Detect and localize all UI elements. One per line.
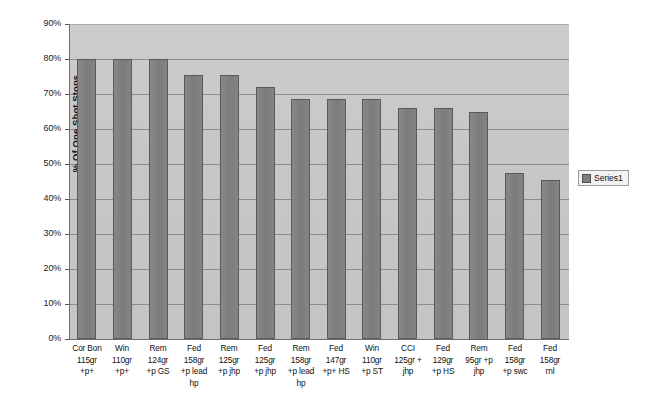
x-axis-label-line: Rem xyxy=(281,343,321,355)
x-axis-label-line: +p lead xyxy=(281,366,321,378)
x-axis-label: Fed158gr+p leadhp xyxy=(174,343,214,389)
x-axis-label: Rem158gr+p leadhp xyxy=(281,343,321,389)
bar[interactable] xyxy=(113,59,132,339)
x-axis-label-line: 115gr xyxy=(67,355,107,367)
x-axis-label-line: +p+ xyxy=(67,366,107,378)
bar[interactable] xyxy=(398,108,417,339)
y-tick-label-70: 70% xyxy=(21,88,61,98)
x-axis-label-line: CCI xyxy=(388,343,428,355)
bar[interactable] xyxy=(505,173,524,339)
bar-chart: 90%80%70%60%50%40%30%20%10%0% % Of One S… xyxy=(0,0,661,417)
y-tick-label-20: 20% xyxy=(21,263,61,273)
x-axis-label-line: Fed xyxy=(316,343,356,355)
x-axis-label-line: 129gr xyxy=(423,355,463,367)
x-axis-label-line: 125gr + xyxy=(388,355,428,367)
x-axis-label: Cor Bon115gr+p+ xyxy=(67,343,107,378)
x-axis-label-line: 110gr xyxy=(102,355,142,367)
x-axis-label: Win110gr+p ST xyxy=(352,343,392,378)
x-axis-label-line: 110gr xyxy=(352,355,392,367)
x-axis-label-line: Rem xyxy=(459,343,499,355)
x-axis-label-line: Cor Bon xyxy=(67,343,107,355)
x-axis-labels: Cor Bon115gr+p+Win110gr+p+Rem124gr+p GSF… xyxy=(69,343,568,403)
bar[interactable] xyxy=(149,59,168,339)
y-tick-label-30: 30% xyxy=(21,228,61,238)
x-axis-label: Win110gr+p+ xyxy=(102,343,142,378)
legend[interactable]: Series1 xyxy=(578,170,629,186)
x-axis-label: Rem125gr+p jhp xyxy=(209,343,249,378)
x-axis-label-line: 158gr xyxy=(495,355,535,367)
x-axis-label: Fed158grrnl xyxy=(530,343,570,378)
x-axis-label: Fed125gr+p jhp xyxy=(245,343,285,378)
bar-series-series1 xyxy=(69,24,568,339)
y-tick-label-90: 90% xyxy=(21,18,61,28)
x-axis-label-line: +p GS xyxy=(138,366,178,378)
x-axis-label-line: +p jhp xyxy=(245,366,285,378)
x-axis-label-line: 158gr xyxy=(281,355,321,367)
bar[interactable] xyxy=(362,99,381,339)
bar[interactable] xyxy=(469,112,488,340)
bar[interactable] xyxy=(434,108,453,339)
x-axis-label-line: +p jhp xyxy=(209,366,249,378)
x-axis-label-line: hp xyxy=(281,378,321,390)
x-axis-label-line: Win xyxy=(352,343,392,355)
x-axis-label: CCI125gr +jhp xyxy=(388,343,428,378)
x-axis-label-line: 95gr +p xyxy=(459,355,499,367)
x-axis-label-line: +p HS xyxy=(423,366,463,378)
legend-label-series1: Series1 xyxy=(594,173,623,183)
y-tick-mark-0 xyxy=(65,339,69,340)
x-axis-label-line: Rem xyxy=(138,343,178,355)
bar[interactable] xyxy=(77,59,96,339)
x-axis-label-line: +p+ xyxy=(102,366,142,378)
y-tick-label-10: 10% xyxy=(21,298,61,308)
bar[interactable] xyxy=(184,75,203,339)
x-axis-label-line: +p+ HS xyxy=(316,366,356,378)
x-axis-label-line: 125gr xyxy=(209,355,249,367)
x-axis-label: Fed129gr+p HS xyxy=(423,343,463,378)
x-axis-label-line: 147gr xyxy=(316,355,356,367)
bar[interactable] xyxy=(256,87,275,339)
x-axis-label: Fed147gr+p+ HS xyxy=(316,343,356,378)
x-axis-label-line: 158gr xyxy=(174,355,214,367)
x-axis-label: Rem124gr+p GS xyxy=(138,343,178,378)
x-axis-label-line: Fed xyxy=(423,343,463,355)
y-tick-label-50: 50% xyxy=(21,158,61,168)
x-axis-label-line: jhp xyxy=(388,366,428,378)
x-axis-label-line: +p ST xyxy=(352,366,392,378)
x-axis-label-line: 125gr xyxy=(245,355,285,367)
bar[interactable] xyxy=(291,99,310,339)
x-axis-label-line: Fed xyxy=(174,343,214,355)
x-axis-label-line: rnl xyxy=(530,366,570,378)
x-axis-label-line: Win xyxy=(102,343,142,355)
y-tick-label-0: 0% xyxy=(21,333,61,343)
bar[interactable] xyxy=(541,180,560,339)
x-axis-label-line: +p swc xyxy=(495,366,535,378)
bar[interactable] xyxy=(220,75,239,339)
x-axis-label-line: 124gr xyxy=(138,355,178,367)
y-tick-label-80: 80% xyxy=(21,53,61,63)
bar[interactable] xyxy=(327,99,346,339)
y-tick-label-40: 40% xyxy=(21,193,61,203)
x-axis-label-line: +p lead xyxy=(174,366,214,378)
x-axis-label-line: Fed xyxy=(495,343,535,355)
x-axis-label-line: Rem xyxy=(209,343,249,355)
x-axis-label-line: 158gr xyxy=(530,355,570,367)
y-tick-label-60: 60% xyxy=(21,123,61,133)
x-axis-label: Fed158gr+p swc xyxy=(495,343,535,378)
x-axis-label-line: Fed xyxy=(530,343,570,355)
x-axis-label: Rem95gr +pjhp xyxy=(459,343,499,378)
x-axis-label-line: jhp xyxy=(459,366,499,378)
x-axis-label-line: Fed xyxy=(245,343,285,355)
x-axis-label-line: hp xyxy=(174,378,214,390)
legend-swatch-series1 xyxy=(582,174,591,183)
